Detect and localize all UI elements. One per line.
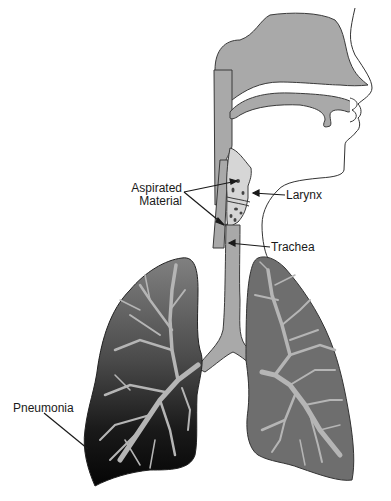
nasal-cavity [215, 13, 368, 104]
lips [350, 98, 357, 122]
oral-palate [230, 93, 353, 127]
aspiration-pneumonia-diagram: Aspirated Material Larynx Trachea Pneumo… [0, 0, 391, 501]
pneumonia-label: Pneumonia [13, 402, 74, 415]
right-lung [246, 257, 354, 480]
larynx-label: Larynx [286, 189, 322, 202]
aspirated-label-line2: Material [122, 195, 182, 208]
trachea-label: Trachea [271, 241, 315, 254]
anatomy-illustration [0, 0, 391, 501]
aspirated-material-label: Aspirated Material [122, 182, 182, 208]
